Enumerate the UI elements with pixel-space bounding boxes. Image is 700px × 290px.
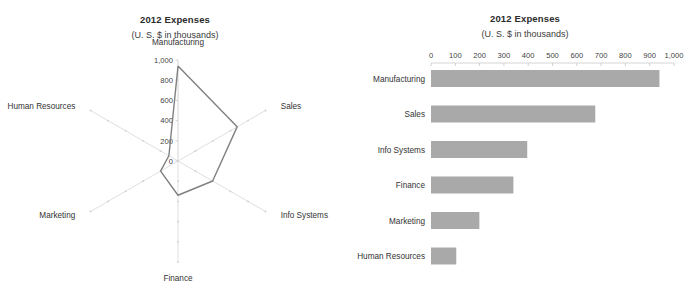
- bar-category-label: Sales: [405, 110, 425, 119]
- bar-axis-tick-label: 100: [449, 51, 462, 60]
- radar-grid-tick-dot: [177, 261, 179, 263]
- radar-category-label: Manufacturing: [152, 38, 204, 47]
- radar-category-label: Info Systems: [281, 211, 328, 220]
- radar-grid-tick-dot: [212, 140, 214, 142]
- radar-grid-tick-dot: [125, 190, 127, 192]
- bar-rect: [431, 212, 479, 229]
- bar-category-label: Human Resources: [357, 252, 425, 261]
- radar-axis-tick-label: 400: [160, 116, 173, 125]
- bar-category-label: Info Systems: [378, 146, 425, 155]
- radar-grid-tick-dot: [230, 130, 232, 132]
- bar-plot-area: 01002003004005006007008009001,000Manufac…: [350, 0, 700, 290]
- radar-axis-tick-label: 1,000: [154, 56, 173, 65]
- bar-chart-panel: 2012 Expenses (U. S. $ in thousands) 010…: [350, 0, 700, 290]
- radar-grid-tick-dot: [90, 211, 92, 213]
- radar-category-label: Human Resources: [7, 102, 75, 111]
- bar-rect: [431, 70, 659, 87]
- radar-category-label: Finance: [163, 274, 193, 283]
- radar-series-polygon: [161, 66, 238, 195]
- bar-axis-tick-label: 0: [429, 51, 433, 60]
- radar-grid-tick-dot: [177, 180, 179, 182]
- radar-grid-tick-dot: [90, 110, 92, 112]
- dual-chart-figure: 2012 Expenses (U. S. $ in thousands) 020…: [0, 0, 700, 290]
- radar-grid-tick-dot: [107, 120, 109, 122]
- bar-row: Manufacturing: [373, 70, 659, 87]
- bar-svg: 01002003004005006007008009001,000Manufac…: [350, 0, 700, 290]
- radar-grid-tick-dot: [265, 211, 267, 213]
- radar-spoke: [178, 111, 265, 162]
- radar-category-label: Sales: [281, 102, 301, 111]
- bar-row: Human Resources: [357, 248, 456, 265]
- bar-axis-tick-label: 400: [522, 51, 535, 60]
- bar-rect: [431, 248, 456, 265]
- radar-grid-tick-dot: [177, 201, 179, 203]
- radar-plot-area: 02004006008001,000ManufacturingSalesInfo…: [0, 0, 350, 290]
- bar-rect: [431, 141, 527, 158]
- bar-axis-tick-label: 700: [595, 51, 608, 60]
- bar-row: Info Systems: [378, 141, 528, 158]
- bar-axis-tick-label: 900: [643, 51, 656, 60]
- bar-category-label: Finance: [396, 181, 426, 190]
- bar-row: Sales: [405, 106, 596, 123]
- radar-grid-tick-dot: [160, 150, 162, 152]
- bar-rect: [431, 177, 513, 194]
- radar-grid-tick-dot: [247, 201, 249, 203]
- radar-grid-tick-dot: [230, 190, 232, 192]
- bar-axis-tick-label: 500: [546, 51, 559, 60]
- bar-row: Marketing: [389, 212, 479, 229]
- bar-category-label: Marketing: [389, 217, 425, 226]
- radar-grid-tick-dot: [142, 140, 144, 142]
- bar-category-label: Manufacturing: [373, 75, 425, 84]
- bar-rect: [431, 106, 595, 123]
- radar-grid-tick-dot: [247, 120, 249, 122]
- radar-category-label: Marketing: [39, 211, 75, 220]
- bar-axis-tick-label: 800: [619, 51, 632, 60]
- radar-grid-tick-dot: [177, 221, 179, 223]
- radar-chart-panel: 2012 Expenses (U. S. $ in thousands) 020…: [0, 0, 350, 290]
- bar-row: Finance: [396, 177, 514, 194]
- radar-spoke: [91, 161, 178, 212]
- radar-grid-tick-dot: [142, 180, 144, 182]
- radar-axis-tick-label: 800: [160, 76, 173, 85]
- radar-spoke: [178, 161, 265, 212]
- radar-axis-tick-label: 0: [169, 157, 173, 166]
- bar-axis-tick-label: 300: [498, 51, 511, 60]
- radar-grid-tick-dot: [195, 150, 197, 152]
- radar-grid-tick-dot: [107, 201, 109, 203]
- bar-axis-tick-label: 200: [473, 51, 486, 60]
- radar-grid-tick-dot: [177, 241, 179, 243]
- bar-axis-tick-label: 1,000: [664, 51, 683, 60]
- radar-grid-tick-dot: [195, 170, 197, 172]
- radar-axis-tick-label: 600: [160, 96, 173, 105]
- radar-svg: 02004006008001,000ManufacturingSalesInfo…: [0, 0, 350, 290]
- radar-grid-tick-dot: [265, 110, 267, 112]
- bar-axis-tick-label: 600: [570, 51, 583, 60]
- radar-grid-tick-dot: [125, 130, 127, 132]
